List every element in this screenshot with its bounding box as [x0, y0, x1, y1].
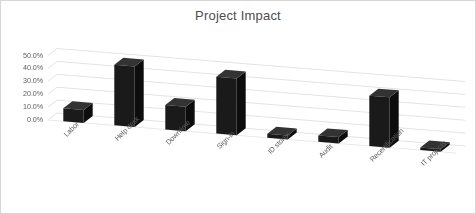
chart-plot-area	[1, 1, 476, 214]
chart-frame: Project Impact 0.0%10.0%20.0%30.0%40.0%5…	[0, 0, 476, 214]
y-axis-tick-label: 30.0%	[23, 76, 43, 85]
y-axis-tick-label: 20.0%	[23, 89, 43, 98]
y-axis-tick-label: 50.0%	[23, 51, 43, 60]
y-axis-tick-label: 10.0%	[23, 102, 43, 111]
y-axis-tick-label: 40.0%	[23, 63, 43, 72]
y-axis-tick-label: 0.0%	[27, 115, 43, 124]
